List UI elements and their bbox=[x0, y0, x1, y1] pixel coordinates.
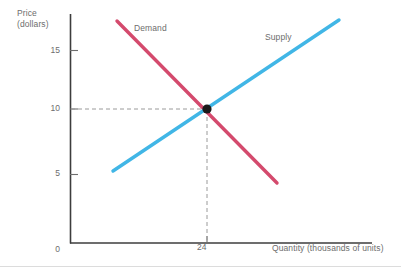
y-axis-title: Price (dollars) bbox=[17, 8, 49, 30]
supply-demand-chart: Price (dollars) Quantity (thousands of u… bbox=[0, 0, 401, 274]
y-axis-title-line2: (dollars) bbox=[17, 19, 49, 30]
x-axis-title: Quantity (thousands of units) bbox=[272, 243, 384, 253]
equilibrium-point-marker bbox=[202, 104, 211, 113]
y-tick-label-0: 0 bbox=[40, 244, 60, 254]
chart-plot-area bbox=[0, 0, 401, 274]
demand-curve bbox=[117, 21, 277, 183]
series-label-supply: Supply bbox=[265, 32, 292, 42]
y-axis-title-line1: Price bbox=[17, 8, 49, 19]
series-label-demand: Demand bbox=[134, 23, 167, 33]
y-tick-label-5: 5 bbox=[40, 168, 60, 178]
footer-divider bbox=[0, 266, 401, 267]
x-tick-label-24: 24 bbox=[197, 242, 206, 252]
y-tick-label-15: 15 bbox=[40, 45, 60, 55]
supply-curve bbox=[113, 20, 339, 171]
y-tick-label-10: 10 bbox=[40, 103, 60, 113]
